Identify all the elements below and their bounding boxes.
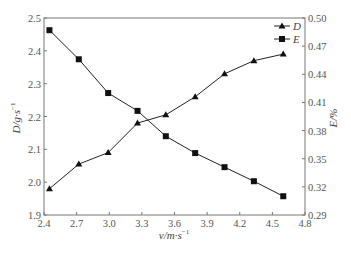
data-series: [46, 27, 287, 199]
triangle-marker-icon: [192, 93, 199, 99]
x-tick-label: 3.9: [201, 218, 214, 229]
x-tick-label: 3.6: [168, 218, 181, 229]
plot-border: [44, 18, 305, 215]
y2-tick-label: 0.44: [308, 69, 327, 80]
y2-tick-label: 0.41: [308, 97, 326, 108]
y2-tick-label: 0.47: [308, 41, 326, 52]
y-tick-label: 2.4: [28, 46, 42, 57]
square-marker-icon: [163, 133, 169, 139]
triangle-marker-icon: [162, 111, 169, 117]
triangle-marker-icon: [280, 51, 287, 57]
plot-frame: [44, 18, 305, 215]
square-marker-icon: [280, 193, 286, 199]
y-tick-label: 1.9: [28, 210, 41, 221]
square-marker-icon: [279, 36, 285, 42]
x-tick-label: 3.3: [135, 218, 148, 229]
series-line-d: [49, 54, 283, 189]
legend: D E: [274, 20, 301, 45]
square-marker-icon: [251, 178, 257, 184]
y2-tick-label: 0.35: [308, 154, 326, 165]
square-marker-icon: [105, 90, 111, 96]
legend-label-e: E: [292, 33, 300, 45]
square-marker-icon: [135, 108, 141, 114]
y-axis-title: D/g·s−1: [9, 102, 22, 134]
x-axis-title: v/m·s−1: [159, 228, 190, 241]
square-marker-icon: [192, 150, 198, 156]
y2-tick-label: 0.32: [308, 182, 326, 193]
square-marker-icon: [222, 164, 228, 170]
y-tick-label: 2.2: [28, 112, 41, 123]
y-tick-label: 2.5: [28, 13, 41, 24]
y2-tick-label: 0.29: [308, 210, 326, 221]
x-tick-label: 2.7: [70, 218, 83, 229]
square-marker-icon: [76, 56, 82, 62]
square-marker-icon: [46, 27, 52, 33]
y2-axis-title: E/%: [327, 109, 339, 129]
y-tick-label: 2.1: [28, 144, 41, 155]
y-tick-label: 2.3: [28, 79, 41, 90]
y2-tick-label: 0.50: [308, 13, 326, 24]
x-tick-label: 4.5: [266, 218, 279, 229]
triangle-marker-icon: [221, 70, 228, 76]
y-tick-label: 2.0: [28, 177, 41, 188]
y2-tick-label: 0.38: [308, 126, 326, 137]
x-tick-label: 4.2: [233, 218, 246, 229]
legend-label-d: D: [292, 20, 301, 32]
x-tick-label: 3.0: [103, 218, 116, 229]
dual-axis-line-chart: 2.42.73.03.33.63.94.24.54.81.92.02.12.22…: [0, 0, 351, 254]
